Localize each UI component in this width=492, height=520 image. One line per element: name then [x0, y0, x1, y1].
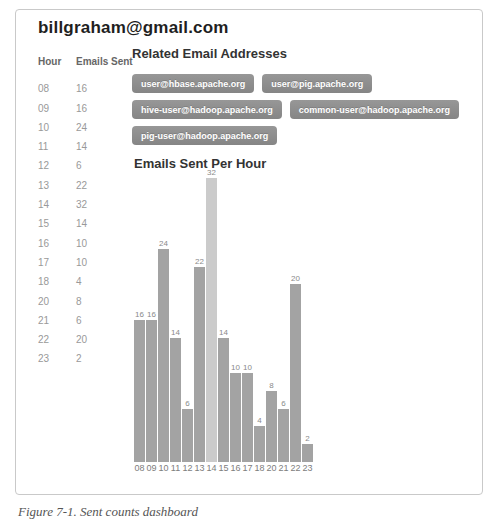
table-row: 232 — [38, 349, 133, 368]
table-row: 0816 — [38, 79, 133, 98]
chart-bar-group: 1415 — [218, 328, 229, 475]
emails-sent-column-header: Emails Sent — [73, 52, 133, 71]
chart-bar-group: 3214 — [206, 168, 217, 475]
table-row: 1514 — [38, 214, 133, 233]
hour-cell: 14 — [38, 195, 73, 214]
emails-sent-cell: 22 — [73, 176, 87, 195]
bar-value-label: 4 — [257, 416, 261, 426]
bar-value-label: 20 — [291, 274, 300, 284]
bar-value-label: 10 — [231, 363, 240, 373]
emails-sent-cell: 8 — [73, 292, 82, 311]
hour-cell: 12 — [38, 156, 73, 175]
emails-sent-cell: 2 — [73, 349, 82, 368]
emails-sent-cell: 14 — [73, 214, 87, 233]
hour-cell: 13 — [38, 176, 73, 195]
chart-bar-group: 820 — [266, 381, 277, 475]
table-row: 1024 — [38, 118, 133, 137]
x-axis-tick-label: 20 — [266, 462, 276, 475]
bar-value-label: 10 — [243, 363, 252, 373]
emails-sent-cell: 14 — [73, 137, 87, 156]
hour-table-body: 0816091610241114126132214321514161017101… — [38, 79, 133, 368]
hour-cell: 23 — [38, 349, 73, 368]
emails-sent-cell: 10 — [73, 253, 87, 272]
related-email-button[interactable]: user@pig.apache.org — [262, 74, 372, 93]
bar-value-label: 32 — [207, 168, 216, 178]
x-axis-tick-label: 21 — [278, 462, 288, 475]
chart-bar — [182, 409, 193, 462]
dashboard-panel: billgraham@gmail.com Hour Emails Sent 08… — [15, 9, 483, 495]
chart-bar — [242, 373, 253, 462]
x-axis-tick-label: 17 — [242, 462, 252, 475]
emails-per-hour-chart: 1608160924101411612221332141415101610174… — [134, 168, 313, 475]
x-axis-tick-label: 12 — [182, 462, 192, 475]
chart-bar — [290, 284, 301, 462]
table-row: 0916 — [38, 99, 133, 118]
hour-cell: 17 — [38, 253, 73, 272]
bar-value-label: 14 — [219, 328, 228, 338]
bar-value-label: 2 — [305, 434, 309, 444]
x-axis-tick-label: 15 — [218, 462, 228, 475]
table-row: 2220 — [38, 330, 133, 349]
hour-cell: 20 — [38, 292, 73, 311]
hour-cell: 18 — [38, 272, 73, 291]
chart-bar-group: 2410 — [158, 239, 169, 475]
table-row: 1432 — [38, 195, 133, 214]
related-email-button[interactable]: user@hbase.apache.org — [132, 74, 254, 93]
bar-value-label: 24 — [159, 239, 168, 249]
related-email-button[interactable]: pig-user@hadoop.apache.org — [132, 126, 277, 145]
bar-value-label: 8 — [269, 381, 273, 391]
chart-bar — [278, 409, 289, 462]
chart-bar — [266, 391, 277, 462]
related-email-buttons: user@hbase.apache.orguser@pig.apache.org… — [132, 74, 477, 145]
x-axis-tick-label: 16 — [230, 462, 240, 475]
bar-value-label: 16 — [147, 310, 156, 320]
chart-bar — [302, 444, 313, 462]
bar-value-label: 6 — [281, 399, 285, 409]
hour-cell: 15 — [38, 214, 73, 233]
chart-bar-group: 418 — [254, 416, 265, 475]
hour-cell: 11 — [38, 137, 73, 156]
emails-sent-cell: 16 — [73, 99, 87, 118]
chart-bar-group: 1608 — [134, 310, 145, 475]
related-email-button[interactable]: hive-user@hadoop.apache.org — [132, 100, 282, 119]
chart-bar — [230, 373, 241, 462]
emails-sent-cell: 10 — [73, 234, 87, 253]
chart-bar-group: 223 — [302, 434, 313, 475]
hour-table-header: Hour Emails Sent — [38, 52, 133, 71]
hour-cell: 09 — [38, 99, 73, 118]
table-row: 208 — [38, 292, 133, 311]
hour-cell: 16 — [38, 234, 73, 253]
chart-bar — [218, 338, 229, 462]
bar-value-label: 16 — [135, 310, 144, 320]
table-row: 1610 — [38, 234, 133, 253]
chart-bar — [254, 426, 265, 462]
table-row: 184 — [38, 272, 133, 291]
emails-sent-cell: 16 — [73, 79, 87, 98]
bar-value-label: 14 — [171, 328, 180, 338]
table-row: 1114 — [38, 137, 133, 156]
x-axis-tick-label: 10 — [158, 462, 168, 475]
emails-sent-cell: 20 — [73, 330, 87, 349]
chart-bar-group: 621 — [278, 399, 289, 475]
chart-bar-group: 2022 — [290, 274, 301, 475]
chart-bar-group: 1411 — [170, 328, 181, 475]
hour-cell: 21 — [38, 311, 73, 330]
chart-bar-group: 1609 — [146, 310, 157, 475]
chart-bar — [158, 249, 169, 462]
emails-sent-cell: 32 — [73, 195, 87, 214]
x-axis-tick-label: 11 — [171, 462, 180, 475]
x-axis-tick-label: 08 — [134, 462, 144, 475]
bar-value-label: 6 — [185, 399, 189, 409]
emails-sent-cell: 6 — [73, 311, 82, 330]
emails-sent-cell: 6 — [73, 156, 82, 175]
x-axis-tick-label: 09 — [146, 462, 156, 475]
chart-bar-group: 1017 — [242, 363, 253, 475]
chart-bar-group: 1016 — [230, 363, 241, 475]
chart-bar — [170, 338, 181, 462]
x-axis-tick-label: 22 — [290, 462, 300, 475]
hour-cell: 08 — [38, 79, 73, 98]
related-email-button[interactable]: common-user@hadoop.apache.org — [290, 100, 459, 119]
hour-cell: 10 — [38, 118, 73, 137]
chart-bar — [146, 320, 157, 462]
x-axis-tick-label: 23 — [302, 462, 312, 475]
